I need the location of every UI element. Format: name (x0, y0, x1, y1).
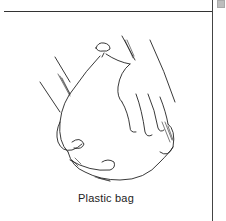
hands-holding-bag-illustration (0, 12, 212, 192)
corner-marker-icon (217, 0, 225, 8)
right-margin-rule (212, 0, 213, 221)
figure-caption: Plastic bag (0, 192, 212, 204)
